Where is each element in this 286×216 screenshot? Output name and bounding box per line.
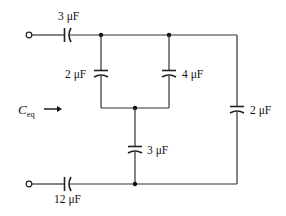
ceq-label: Ceq xyxy=(18,102,35,119)
node-bottom xyxy=(133,182,137,186)
branch-mid-4uF: 4 μF xyxy=(162,35,203,108)
branch-center-3uF: 3 μF xyxy=(128,108,168,184)
arrow-right-icon xyxy=(44,106,62,112)
label-bottom-12uF: 12 μF xyxy=(54,193,81,206)
branch-left-2uF: 2 μF xyxy=(65,35,108,108)
label-right-2uF: 2 μF xyxy=(250,104,271,117)
ceq-subscript: eq xyxy=(27,109,36,119)
ceq-indicator: Ceq xyxy=(18,102,62,119)
label-left-2uF: 2 μF xyxy=(65,68,86,81)
label-center-3uF: 3 μF xyxy=(147,144,168,157)
terminal-top xyxy=(26,32,32,38)
capacitor-top-3uF: 3 μF xyxy=(58,10,79,42)
label-mid-4uF: 4 μF xyxy=(182,68,203,81)
terminal-bottom xyxy=(26,181,32,187)
ceq-symbol: C xyxy=(18,102,27,117)
capacitor-bottom-12uF: 12 μF xyxy=(54,177,81,206)
branch-right-2uF: 2 μF xyxy=(230,35,271,184)
label-top-3uF: 3 μF xyxy=(58,10,79,23)
capacitor-circuit-diagram: 3 μF 2 μF 4 μF 3 μF 2 μF xyxy=(0,0,286,216)
